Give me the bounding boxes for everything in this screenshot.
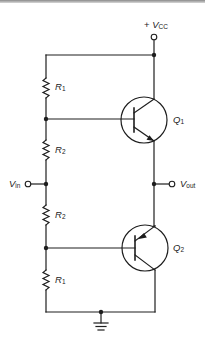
resistor-r1-bottom-icon [43, 270, 49, 290]
vout-terminal [154, 181, 175, 187]
r2-top-label: R2 [55, 145, 66, 156]
ground-icon [94, 312, 108, 330]
r2-bottom-label: R2 [55, 210, 66, 221]
q2-label: Q2 [173, 243, 184, 254]
vin-terminal [25, 181, 46, 187]
circuit-diagram [0, 0, 205, 349]
vin-label: Vin [9, 179, 20, 190]
resistor-r1-top-icon [43, 78, 49, 98]
vout-node [152, 182, 156, 186]
q1-label: Q1 [173, 115, 184, 126]
r1-top-label: R1 [55, 82, 66, 93]
vout-label: Vout [180, 179, 195, 190]
r1-bottom-label: R1 [55, 275, 66, 286]
q2-base-node [44, 246, 48, 250]
vcc-label: + VCC [144, 20, 168, 31]
vin-node [44, 182, 48, 186]
q1-base-node [44, 117, 48, 121]
resistor-r2-bottom-icon [43, 205, 49, 225]
transistor-q1-npn-icon [121, 97, 167, 143]
resistor-r2-top-icon [43, 140, 49, 160]
vcc-terminal [151, 34, 157, 55]
